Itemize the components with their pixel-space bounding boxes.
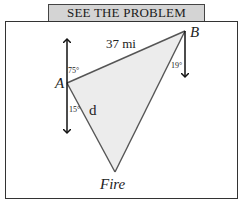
triangle-diagram: A B Fire 37 mi d 75° 15° 19° <box>0 0 241 204</box>
angle-15-label: 15° <box>69 105 80 114</box>
distance-ab-label: 37 mi <box>106 36 136 51</box>
fire-label: Fire <box>99 176 126 192</box>
point-a-label: A <box>54 75 65 91</box>
distance-d-label: d <box>89 102 97 118</box>
angle-75-label: 75° <box>68 66 79 75</box>
point-b-label: B <box>190 24 199 40</box>
angle-19-label: 19° <box>171 61 182 70</box>
